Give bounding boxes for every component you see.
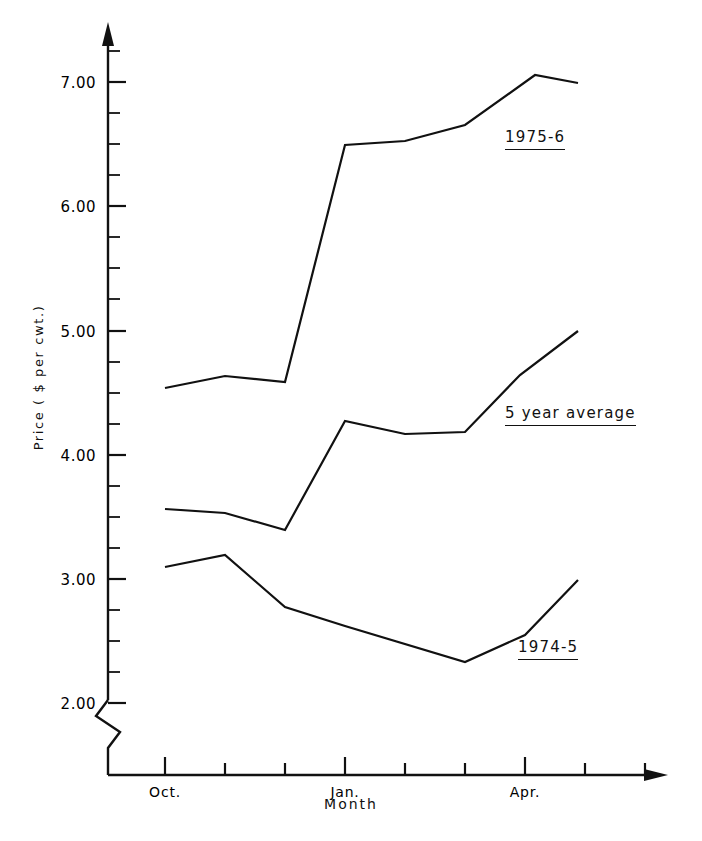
line-chart: 7.00 6.00 5.00 4.00 3.00 2.00 Oct. Jan. … (0, 0, 702, 841)
series-line-1975-6 (165, 75, 578, 388)
y-tick-label: 5.00 (61, 323, 96, 341)
series-line-1974-5 (165, 555, 578, 662)
y-axis (102, 22, 114, 700)
y-tick-label: 2.00 (61, 695, 96, 713)
y-tick-label: 6.00 (61, 198, 96, 216)
x-axis-arrow-icon (644, 769, 668, 781)
y-axis-break-icon (96, 700, 120, 775)
series-label-1974-5: 1974-5 (518, 638, 578, 660)
y-axis-title: Price ( $ per cwt.) (31, 268, 46, 488)
series-label-5-year-average: 5 year average (505, 404, 636, 426)
series-line-5-year-average (165, 331, 578, 530)
y-tick-label: 3.00 (61, 571, 96, 589)
y-tick-label: 4.00 (61, 447, 96, 465)
series-label-1975-6: 1975-6 (505, 128, 565, 150)
x-axis-title: Month (0, 796, 702, 812)
y-axis-arrow-icon (102, 22, 114, 46)
x-ticks (165, 757, 645, 775)
y-tick-label: 7.00 (61, 74, 96, 92)
